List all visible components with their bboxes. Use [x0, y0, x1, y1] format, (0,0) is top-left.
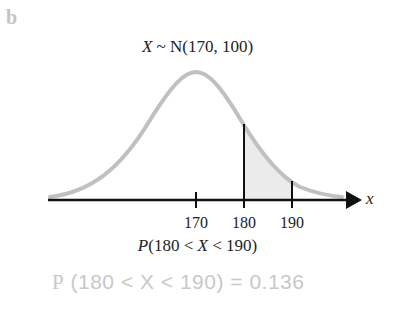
axis-variable-label: x [366, 189, 374, 209]
tick-label-180: 180 [232, 214, 256, 232]
tick-label-190: 190 [280, 214, 304, 232]
prob-p: P [138, 236, 148, 255]
prob-suffix: < 190) [208, 236, 257, 255]
result-p: P [52, 270, 64, 294]
prob-text: (180 < [148, 236, 197, 255]
result-text: (180 < X < 190) = 0.136 [64, 270, 304, 293]
normal-curve [50, 72, 342, 197]
probability-label: P(180 < X < 190) [0, 236, 395, 256]
axis-arrow-icon [346, 191, 362, 209]
prob-var: X [198, 236, 208, 255]
tick-label-170: 170 [184, 214, 208, 232]
probability-result: P (180 < X < 190) = 0.136 [52, 270, 304, 295]
